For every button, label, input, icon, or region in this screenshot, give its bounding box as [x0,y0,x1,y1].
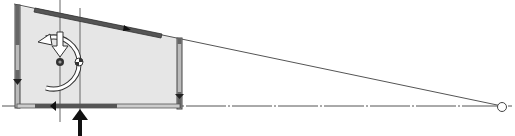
center-of-rigidity-marker [75,58,83,66]
center-of-mass-marker [56,58,64,66]
diagram-canvas [0,0,515,136]
structural-diagram [0,0,515,136]
pivot-circle [498,103,507,112]
lateral-load-arrow [72,109,88,136]
